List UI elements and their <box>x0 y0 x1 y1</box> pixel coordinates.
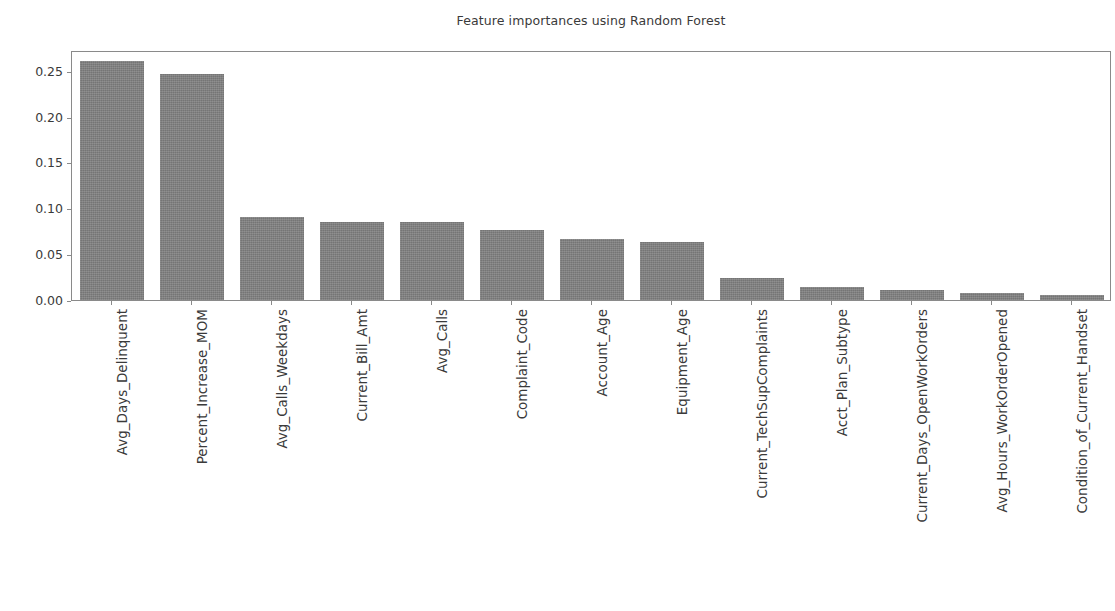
bar <box>720 278 784 300</box>
x-tick-label: Acct_Plan_Subtype <box>836 309 850 436</box>
bar <box>240 217 304 300</box>
x-tick-label: Equipment_Age <box>676 309 690 415</box>
bar <box>880 290 944 300</box>
x-tick-mark <box>911 301 912 305</box>
x-tick-mark <box>831 301 832 305</box>
x-tick-label: Avg_Calls <box>436 309 450 373</box>
x-tick-mark <box>591 301 592 305</box>
x-tick-mark <box>751 301 752 305</box>
x-tick-mark <box>1071 301 1072 305</box>
bar <box>80 61 144 300</box>
y-tick-mark <box>67 301 71 302</box>
y-tick-mark <box>67 72 71 73</box>
bar <box>480 230 544 300</box>
x-tick-mark <box>511 301 512 305</box>
x-tick-mark <box>671 301 672 305</box>
bar <box>160 74 224 300</box>
x-tick-label: Complaint_Code <box>516 309 530 419</box>
y-tick-label: 0.00 <box>13 295 63 308</box>
bar <box>400 222 464 300</box>
y-tick-mark <box>67 209 71 210</box>
x-tick-label: Condition_of_Current_Handset <box>1076 309 1090 514</box>
figure-canvas: Feature importances using Random Forest … <box>0 0 1115 611</box>
y-tick-mark <box>67 163 71 164</box>
x-tick-label: Current_Days_OpenWorkOrders <box>916 309 930 523</box>
x-tick-label: Current_TechSupComplaints <box>756 309 770 498</box>
x-tick-mark <box>191 301 192 305</box>
x-tick-label: Account_Age <box>596 309 610 396</box>
x-tick-label: Avg_Hours_WorkOrderOpened <box>996 309 1010 513</box>
y-tick-label: 0.05 <box>13 249 63 262</box>
bar <box>800 287 864 300</box>
y-tick-mark <box>67 255 71 256</box>
y-tick-mark <box>67 118 71 119</box>
x-tick-label: Percent_Increase_MOM <box>196 309 210 464</box>
y-tick-label: 0.15 <box>13 157 63 170</box>
x-tick-label: Avg_Calls_Weekdays <box>276 309 290 449</box>
bar <box>560 239 624 300</box>
bar <box>640 242 704 300</box>
bar <box>960 293 1024 300</box>
x-tick-label: Current_Bill_Amt <box>356 309 370 421</box>
x-tick-mark <box>351 301 352 305</box>
x-tick-mark <box>111 301 112 305</box>
x-tick-mark <box>431 301 432 305</box>
y-tick-label: 0.20 <box>13 112 63 125</box>
bars-layer <box>72 52 1110 300</box>
x-tick-label: Avg_Days_Delinquent <box>116 309 130 455</box>
chart-title: Feature importances using Random Forest <box>71 13 1111 28</box>
bar <box>320 222 384 300</box>
y-tick-label: 0.25 <box>13 66 63 79</box>
bar <box>1040 295 1104 300</box>
x-tick-mark <box>271 301 272 305</box>
y-tick-label: 0.10 <box>13 203 63 216</box>
plot-area <box>71 51 1111 301</box>
x-tick-mark <box>991 301 992 305</box>
